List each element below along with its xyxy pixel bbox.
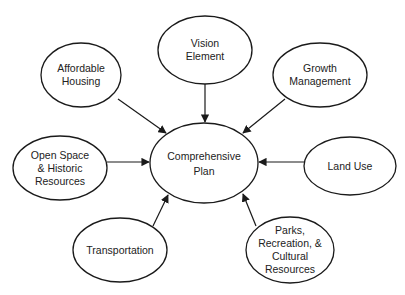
node-transportation: Transportation [73, 218, 167, 282]
node-growth-management: GrowthManagement [273, 43, 367, 107]
arrow-transportation-to-center [153, 195, 168, 226]
comprehensive-plan-ellipse [150, 123, 258, 203]
affordable-housing-label-line: Affordable [57, 62, 105, 74]
arrow-parks-recreation-cultural-resources-to-center [243, 194, 256, 226]
vision-element-label-line: Element [186, 50, 225, 62]
comprehensive-plan-label-line: Comprehensive [167, 150, 241, 162]
parks-recreation-cultural-resources-label-line: Parks, [275, 224, 305, 236]
node-affordable-housing: AffordableHousing [41, 43, 121, 107]
comprehensive-plan-diagram: VisionElementAffordableHousingGrowthMana… [0, 0, 405, 295]
parks-recreation-cultural-resources-label-line: Recreation, & [258, 237, 322, 249]
vision-element-label-line: Vision [191, 37, 220, 49]
transportation-label-line: Transportation [86, 244, 153, 256]
node-vision-element: VisionElement [158, 16, 252, 84]
open-space-historic-resources-label-line: & Historic [38, 162, 83, 174]
node-open-space-historic-resources: Open Space& HistoricResources [13, 136, 107, 200]
node-land-use: Land Use [304, 137, 396, 195]
affordable-housing-label-line: Housing [62, 75, 101, 87]
arrow-growth-management-to-center [243, 99, 285, 133]
parks-recreation-cultural-resources-label-line: Cultural [272, 250, 308, 262]
open-space-historic-resources-label-line: Resources [35, 175, 85, 187]
nodes: VisionElementAffordableHousingGrowthMana… [13, 16, 396, 283]
growth-management-label-line: Growth [303, 62, 337, 74]
arrow-affordable-housing-to-center [118, 99, 166, 133]
open-space-historic-resources-label-line: Open Space [31, 149, 90, 161]
parks-recreation-cultural-resources-label-line: Resources [265, 263, 315, 275]
node-parks-recreation-cultural-resources: Parks,Recreation, &CulturalResources [246, 217, 334, 283]
comprehensive-plan-label-line: Plan [193, 165, 214, 177]
growth-management-label-line: Management [289, 75, 350, 87]
node-comprehensive-plan: ComprehensivePlan [150, 123, 258, 203]
land-use-label-line: Land Use [328, 160, 373, 172]
